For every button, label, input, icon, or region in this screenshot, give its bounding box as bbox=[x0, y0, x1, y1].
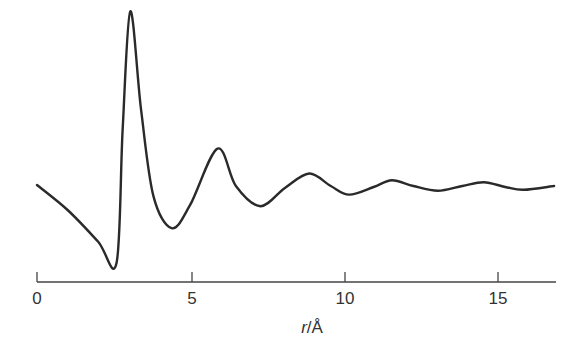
x-axis-unit: /Å bbox=[307, 318, 323, 337]
x-tick-label-5: 5 bbox=[187, 289, 196, 309]
rdf-curve bbox=[37, 11, 554, 269]
x-axis-label: r/Å bbox=[301, 318, 323, 338]
x-axis bbox=[37, 272, 556, 282]
x-tick-label-10: 10 bbox=[336, 289, 355, 309]
x-tick-label-15: 15 bbox=[489, 289, 508, 309]
x-tick-label-0: 0 bbox=[32, 289, 41, 309]
